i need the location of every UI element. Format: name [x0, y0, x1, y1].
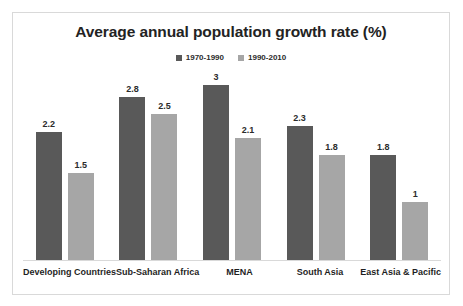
bar-slot: 2.1	[235, 71, 261, 260]
bar[interactable]	[36, 132, 62, 260]
bar-slot: 1.5	[68, 71, 94, 260]
category-label: South Asia	[280, 267, 361, 277]
legend-swatch-icon	[176, 55, 182, 61]
bar-value-label: 1.8	[325, 143, 338, 152]
bar-group: 2.82.5	[107, 71, 191, 260]
bar-value-label: 1.5	[75, 161, 88, 170]
bar-value-label: 1	[413, 190, 418, 199]
bar-value-label: 2.3	[293, 114, 306, 123]
plot-area: 2.21.52.82.532.12.31.81.81	[23, 71, 441, 261]
bar-slot: 1.8	[319, 71, 345, 260]
bar-value-label: 3	[213, 73, 218, 82]
bar[interactable]	[151, 114, 177, 260]
bar-value-label: 2.1	[242, 126, 255, 135]
category-label: East Asia & Pacific	[360, 267, 441, 277]
bar-group: 2.31.8	[274, 71, 358, 260]
bar-slot: 2.5	[151, 71, 177, 260]
axis-baseline	[23, 260, 441, 261]
bar-value-label: 2.2	[43, 120, 56, 129]
chart-title: Average annual population growth rate (%…	[13, 23, 449, 41]
bar-value-label: 1.8	[377, 143, 390, 152]
bar-slot: 2.3	[287, 71, 313, 260]
bar[interactable]	[119, 97, 145, 260]
legend-entry[interactable]: 1990-2010	[238, 53, 286, 62]
bar[interactable]	[68, 173, 94, 261]
bar-value-label: 2.8	[126, 85, 139, 94]
bar-value-label: 2.5	[158, 102, 171, 111]
category-label: Sub-Saharan Africa	[116, 267, 199, 277]
chart-frame: Average annual population growth rate (%…	[12, 12, 450, 295]
bar[interactable]	[402, 202, 428, 260]
bar[interactable]	[319, 155, 345, 260]
bar-slot: 3	[203, 71, 229, 260]
chart-legend: 1970-19901990-2010	[13, 53, 449, 62]
bar[interactable]	[287, 126, 313, 260]
bar-groups: 2.21.52.82.532.12.31.81.81	[23, 71, 441, 260]
bar-slot: 2.2	[36, 71, 62, 260]
bar-group: 2.21.5	[23, 71, 107, 260]
category-label: MENA	[199, 267, 280, 277]
bar-group: 1.81	[357, 71, 441, 260]
bar[interactable]	[203, 85, 229, 260]
bar-slot: 1.8	[370, 71, 396, 260]
category-axis: Developing CountriesSub-Saharan AfricaME…	[23, 262, 441, 282]
bar-slot: 2.8	[119, 71, 145, 260]
legend-entry[interactable]: 1970-1990	[176, 53, 224, 62]
bar-group: 32.1	[190, 71, 274, 260]
legend-label: 1990-2010	[248, 53, 286, 62]
bar[interactable]	[235, 138, 261, 261]
bar-slot: 1	[402, 71, 428, 260]
legend-label: 1970-1990	[186, 53, 224, 62]
bar[interactable]	[370, 155, 396, 260]
category-label: Developing Countries	[23, 267, 116, 277]
legend-swatch-icon	[238, 55, 244, 61]
